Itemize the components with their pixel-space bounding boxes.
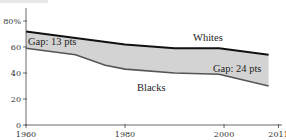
x-tick-label: 2000 bbox=[214, 130, 234, 139]
x-tick-label: 1980 bbox=[115, 130, 135, 139]
y-tick-label: 20 bbox=[11, 95, 21, 104]
gap-end-label: Gap: 24 pts bbox=[213, 63, 261, 74]
whites-label: Whites bbox=[193, 32, 223, 43]
y-tick-label: 60 bbox=[11, 43, 21, 52]
x-axis-ticks: 1960198020002011 bbox=[16, 124, 286, 139]
x-tick-label: 1960 bbox=[16, 130, 36, 139]
y-tick-label: 80% bbox=[3, 17, 21, 26]
gap-start-label: Gap: 13 pts bbox=[28, 36, 76, 47]
blacks-label: Blacks bbox=[137, 82, 166, 93]
y-tick-label: 0 bbox=[16, 121, 21, 130]
y-tick-label: 40 bbox=[11, 69, 21, 78]
x-tick-label: 2011 bbox=[268, 130, 286, 139]
y-axis-ticks: 020406080% bbox=[3, 17, 27, 130]
area-chart: 020406080% 1960198020002011 Whites Black… bbox=[0, 0, 286, 140]
